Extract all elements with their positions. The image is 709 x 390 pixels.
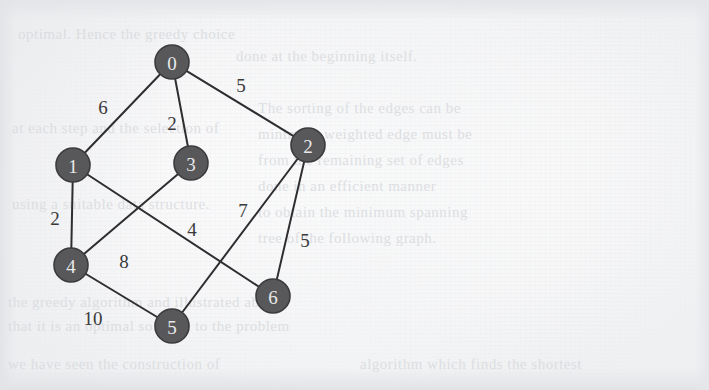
graph-node-1: 1 xyxy=(56,148,90,182)
graph-node-0: 0 xyxy=(155,45,189,79)
graph-node-5: 5 xyxy=(155,309,189,343)
edge-weight-label: 6 xyxy=(98,97,108,118)
edge-weight-label: 4 xyxy=(187,219,197,240)
node-label: 6 xyxy=(268,287,278,308)
graph-node-2: 2 xyxy=(291,128,325,162)
node-label: 4 xyxy=(66,256,76,277)
graph-edge xyxy=(175,77,188,149)
edge-weight-label: 2 xyxy=(50,208,60,229)
edge-weight-label: 10 xyxy=(84,308,103,329)
graph-edge xyxy=(83,73,161,154)
edge-weight-label: 8 xyxy=(119,251,129,272)
graph-node-3: 3 xyxy=(174,146,208,180)
node-label: 0 xyxy=(167,53,177,74)
graph-edge xyxy=(71,180,72,250)
nodes-group: 0132456 xyxy=(54,45,325,343)
graph-edge xyxy=(276,160,304,282)
edge-weight-label: 2 xyxy=(167,113,177,134)
edge-weight-label: 5 xyxy=(236,75,246,96)
graph-node-4: 4 xyxy=(54,248,88,282)
node-label: 3 xyxy=(186,154,196,175)
node-label: 1 xyxy=(68,156,78,177)
graph-edge xyxy=(82,173,179,256)
scanned-page: optimal. Hence the greedy choicedone at … xyxy=(0,0,709,390)
node-label: 2 xyxy=(303,136,313,157)
node-label: 5 xyxy=(167,317,177,338)
graph-diagram: 6252487510 0132456 xyxy=(0,0,709,390)
graph-node-6: 6 xyxy=(256,279,290,313)
edge-weight-label: 5 xyxy=(300,230,310,251)
edge-weight-label: 7 xyxy=(238,200,248,221)
